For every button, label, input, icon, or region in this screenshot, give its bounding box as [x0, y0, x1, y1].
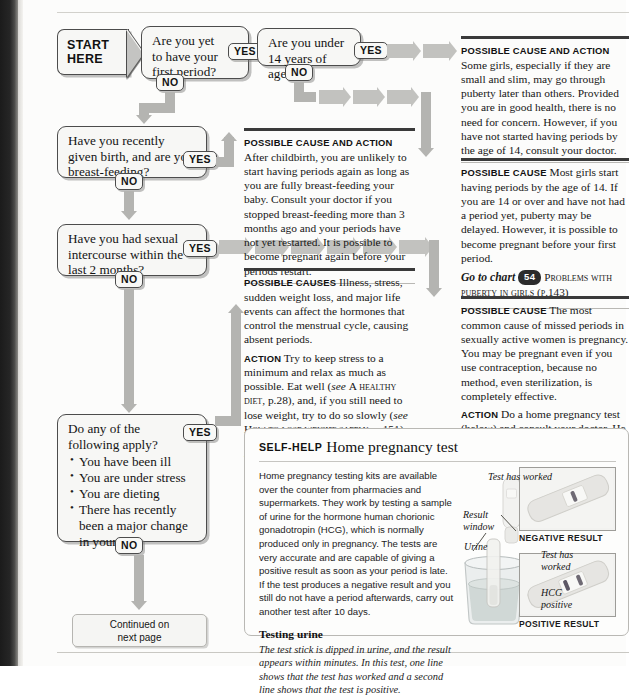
advice-4-action-part2: , p.28), and, if you still need to lose …	[244, 394, 402, 420]
advice-2-paragraph: Possible cause Most girls start having p…	[461, 165, 629, 265]
question-box-q2[interactable]: Are you under 14 years of age?	[257, 28, 361, 66]
goto-chart-prefix: Go to chart	[461, 271, 515, 284]
q5-bullet-2: You are under stress	[79, 470, 197, 486]
advice-4-action-label: Action	[244, 353, 281, 364]
start-label-line2: HERE	[67, 52, 129, 66]
self-help-title: Self-helpHome pregnancy test	[259, 438, 458, 456]
label-hcg-positive: HCG positive	[541, 587, 572, 610]
advice-5-rule	[461, 296, 629, 299]
connector-q1-no-arrow	[136, 115, 152, 124]
continued-next-page-box[interactable]: Continued on next page	[72, 614, 207, 647]
start-here-marker: START HERE	[57, 29, 129, 75]
label-result-window: Result window	[463, 509, 494, 532]
connector-q3-no-arrow	[121, 211, 137, 220]
page-content: START HERE Are you yet to have your firs…	[23, 0, 626, 666]
advice-3-body: After childbirth, you are unlikely to st…	[244, 151, 409, 277]
connector-q2-no-c2	[353, 90, 377, 104]
q2-no-tag[interactable]: NO	[285, 64, 313, 81]
advice-1-rule	[461, 36, 629, 39]
self-help-subheading: Testing urine	[259, 626, 454, 642]
q5-bullet-1: You have been ill	[79, 454, 197, 470]
q4-no-tag[interactable]: NO	[115, 271, 143, 288]
connector-q2-no-arrow	[418, 148, 434, 157]
advice-block-2: Possible cause Most girls start having p…	[461, 158, 629, 309]
positive-result-label: POSITIVE RESULT	[519, 619, 599, 629]
advice-4-see-1: see	[331, 380, 346, 392]
connector-q2-no-c3	[387, 90, 411, 104]
connector-q5-yes-v	[231, 312, 241, 422]
goto-chart-number: 54	[518, 270, 541, 285]
advice-3-paragraph: Possible cause and action After childbir…	[244, 135, 415, 278]
advice-block-3: Possible cause and action After childbir…	[244, 128, 415, 284]
advice-5-body: The most common cause of missed periods …	[461, 304, 628, 402]
advice-4-paragraph: Possible causes Illness, stress, sudden …	[244, 275, 415, 346]
self-help-rule	[259, 461, 616, 462]
connector-q5-no-v	[134, 555, 144, 603]
self-help-panel: Self-helpHome pregnancy test Home pregna…	[244, 428, 629, 636]
connector-q2-yes-b	[423, 44, 449, 58]
advice-5-paragraph: Possible cause The most common cause of …	[461, 303, 629, 403]
connector-q3-no-v	[124, 191, 134, 213]
q3-no-tag[interactable]: NO	[115, 173, 143, 190]
question-q5-bullets: You have been ill You are under stress Y…	[68, 454, 197, 549]
connector-q3-yes-arrow	[221, 132, 237, 141]
connector-q4-no-arrow	[121, 404, 137, 413]
advice-4-rule	[244, 268, 415, 271]
advice-5-action-label: Action	[461, 409, 498, 420]
self-help-kicker: Self-help	[259, 441, 322, 453]
book-gutter	[0, 0, 18, 666]
q3-yes-tag[interactable]: YES	[183, 151, 217, 168]
connector-q2-no-c1	[319, 90, 343, 104]
q5-no-tag[interactable]: NO	[115, 537, 143, 554]
label-test-has-worked-2: Test has worked	[541, 549, 573, 572]
label-urine: Urine	[464, 541, 487, 553]
advice-3-rule	[244, 128, 415, 131]
continued-label: Continued on next page	[110, 618, 170, 644]
label-test-has-worked-1: Test has worked	[488, 471, 552, 483]
top-rule	[57, 12, 629, 13]
connector-q2-no-v2	[421, 92, 431, 150]
connector-q5-yes-arrow	[228, 304, 244, 313]
connector-q2-no-h	[294, 92, 316, 102]
self-help-caption: The test stick is dipped in urine, and t…	[259, 643, 454, 697]
question-q1-text: Are you yet to have your first period?	[152, 33, 218, 79]
advice-4-label: Possible causes	[244, 277, 336, 288]
advice-1-body: Some girls, especially if they are small…	[461, 59, 619, 157]
advice-3-label: Possible cause and action	[244, 137, 393, 148]
advice-block-1: Possible cause and action Some girls, es…	[461, 36, 629, 163]
advice-2-body: Most girls start having periods by the a…	[461, 166, 625, 264]
advice-5-label: Possible cause	[461, 305, 547, 316]
q2-yes-tag[interactable]: YES	[354, 42, 388, 59]
self-help-heading: Home pregnancy test	[326, 438, 458, 455]
start-label-line1: START	[67, 38, 129, 52]
q5-bullet-3: You are dieting	[79, 486, 197, 502]
advice-2-rule	[461, 158, 629, 161]
connector-q4-no-v	[124, 289, 134, 407]
advice-4-see-2: see	[393, 409, 408, 421]
connector-q4-yes-arrow	[426, 288, 442, 297]
connector-q4-yes-v	[429, 240, 439, 290]
advice-1-paragraph: Possible cause and action Some girls, es…	[461, 43, 629, 157]
self-help-body-paragraph: Home pregnancy testing kits are availabl…	[259, 469, 454, 619]
self-help-text: Home pregnancy testing kits are availabl…	[259, 469, 454, 697]
negative-result-label: NEGATIVE RESULT	[519, 533, 603, 543]
advice-2-label: Possible cause	[461, 167, 547, 178]
question-q5-text: Do any of the following apply?	[68, 421, 158, 452]
advice-1-label: Possible cause and action	[461, 45, 610, 56]
connector-q4-yes-c1	[219, 240, 245, 254]
q1-no-tag[interactable]: NO	[156, 74, 184, 91]
q4-yes-tag[interactable]: YES	[183, 240, 217, 257]
q5-yes-tag[interactable]: YES	[183, 424, 217, 441]
connector-q5-no-arrow	[131, 601, 147, 610]
connector-q2-yes-a	[387, 44, 413, 58]
